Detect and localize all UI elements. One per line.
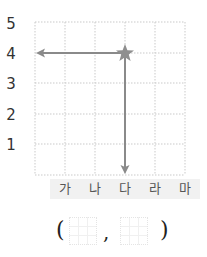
x-label-ga: 가 <box>55 180 75 198</box>
answer-row: ( , ) <box>0 214 207 248</box>
x-label-da: 다 <box>115 180 135 198</box>
x-label-na: 나 <box>85 180 105 198</box>
close-paren: ) <box>160 216 169 244</box>
y-label-1: 1 <box>3 137 19 153</box>
y-label-4: 4 <box>3 46 19 62</box>
arrow-left <box>36 49 125 58</box>
open-paren: ( <box>56 216 65 244</box>
coordinate-diagram: 5 4 3 2 1 가 나 다 라 마 ( , ) <box>0 0 207 257</box>
comma: , <box>103 220 109 244</box>
y-label-5: 5 <box>3 16 19 32</box>
y-label-3: 3 <box>3 76 19 92</box>
answer-box-2[interactable] <box>120 217 148 245</box>
y-label-2: 2 <box>3 107 19 123</box>
x-label-ra: 라 <box>145 180 165 198</box>
answer-box-1[interactable] <box>69 217 97 245</box>
x-label-ma: 마 <box>175 180 195 198</box>
